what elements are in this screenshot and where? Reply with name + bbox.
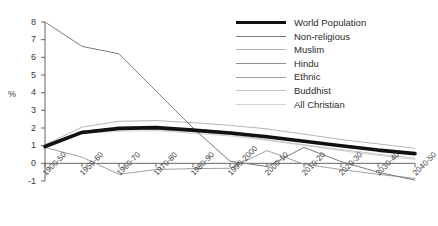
legend-label: Muslim bbox=[294, 45, 324, 55]
legend-label: Non-religious bbox=[294, 32, 350, 42]
legend-swatch bbox=[236, 36, 286, 37]
chart-legend: World PopulationNon-religiousMuslimHindu… bbox=[236, 16, 426, 111]
y-axis-tick: -1 bbox=[18, 176, 36, 186]
y-axis-tick: 4 bbox=[18, 87, 36, 97]
y-axis-tick: 6 bbox=[18, 52, 36, 62]
legend-item: All Christian bbox=[236, 98, 426, 112]
legend-label: Ethnic bbox=[294, 72, 320, 82]
y-axis-tick: 2 bbox=[18, 123, 36, 133]
y-axis-tick: 1 bbox=[18, 140, 36, 150]
y-axis-tick: 7 bbox=[18, 34, 36, 44]
legend-label: All Christian bbox=[294, 100, 345, 110]
y-axis-title: % bbox=[8, 89, 16, 99]
legend-label: Buddhist bbox=[294, 86, 331, 96]
legend-item: Hindu bbox=[236, 57, 426, 71]
legend-swatch bbox=[236, 90, 286, 91]
y-axis-tick: 0 bbox=[18, 158, 36, 168]
legend-swatch bbox=[236, 21, 286, 24]
legend-item: Muslim bbox=[236, 43, 426, 57]
legend-item: Ethnic bbox=[236, 70, 426, 84]
legend-label: World Population bbox=[294, 18, 366, 28]
legend-swatch bbox=[236, 63, 286, 64]
legend-swatch bbox=[236, 77, 286, 78]
y-axis-tick: 3 bbox=[18, 105, 36, 115]
legend-item: Non-religious bbox=[236, 30, 426, 44]
y-axis-tick: 8 bbox=[18, 17, 36, 27]
legend-item: World Population bbox=[236, 16, 426, 30]
y-axis-tick: 5 bbox=[18, 70, 36, 80]
legend-swatch bbox=[236, 49, 286, 50]
legend-swatch bbox=[236, 104, 286, 105]
legend-item: Buddhist bbox=[236, 84, 426, 98]
legend-label: Hindu bbox=[294, 59, 319, 69]
